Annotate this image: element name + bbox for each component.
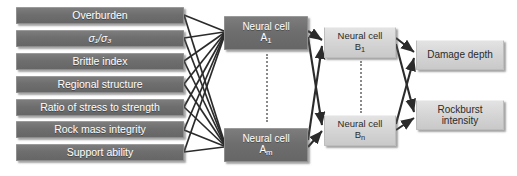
cell-index: 1 xyxy=(361,44,365,53)
neural-cell-bn-label: Neural cellBn xyxy=(338,119,383,142)
input-label: Rock mass integrity xyxy=(54,124,146,136)
input-box-ratio-stress-strength[interactable]: Ratio of stress to strength xyxy=(16,99,184,116)
input-box-rock-mass-integrity[interactable]: Rock mass integrity xyxy=(16,121,184,138)
input-box-brittle-index[interactable]: Brittle index xyxy=(16,53,184,70)
input-box-stress-ratio[interactable]: σ₁/σ₃ xyxy=(16,30,184,47)
layer-a-ellipsis xyxy=(266,54,268,122)
input-box-support-ability[interactable]: Support ability xyxy=(16,144,184,161)
input-box-regional-structure[interactable]: Regional structure xyxy=(16,76,184,93)
input-to-a-wires xyxy=(184,15,224,152)
neural-cell-bn[interactable]: Neural cellBn xyxy=(324,115,396,146)
output-box-rockburst-intensity[interactable]: Rockburstintensity xyxy=(416,100,504,130)
input-label: Support ability xyxy=(67,147,134,159)
layer-b-ellipsis xyxy=(360,61,362,113)
neural-cell-b1-label: Neural cellB1 xyxy=(338,31,383,54)
input-label: Ratio of stress to strength xyxy=(40,102,160,114)
cell-index: m xyxy=(266,148,273,157)
cell-prefix: Neural cell xyxy=(242,133,289,144)
cell-prefix: Neural cell xyxy=(242,21,289,32)
neural-cell-a1-label: Neural cellA1 xyxy=(242,21,289,46)
cell-index: n xyxy=(361,132,365,141)
output-label-line2: intensity xyxy=(442,115,479,126)
input-label: Regional structure xyxy=(57,79,142,91)
input-label-stress-ratio: σ₁/σ₃ xyxy=(88,33,111,45)
neural-cell-b1[interactable]: Neural cellB1 xyxy=(324,27,396,58)
a-to-b-wires xyxy=(308,31,322,147)
neural-cell-am[interactable]: Neural cellAm xyxy=(224,128,308,162)
cell-prefix: Neural cell xyxy=(338,118,383,129)
stress-denominator: σ₃ xyxy=(101,32,112,44)
input-box-overburden[interactable]: Overburden xyxy=(16,7,184,24)
cell-index: 1 xyxy=(267,36,271,45)
stress-numerator: σ₁ xyxy=(88,32,98,44)
input-label: Overburden xyxy=(72,10,127,22)
output-label-rockburst-intensity: Rockburstintensity xyxy=(437,104,482,126)
neural-cell-a1[interactable]: Neural cellA1 xyxy=(224,16,308,50)
input-label: Brittle index xyxy=(73,56,128,68)
output-label: Damage depth xyxy=(427,49,493,60)
output-box-damage-depth[interactable]: Damage depth xyxy=(416,40,504,70)
output-label-line1: Rockburst xyxy=(437,104,482,115)
cell-prefix: Neural cell xyxy=(338,30,383,41)
network-diagram: Overburden σ₁/σ₃ Brittle index Regional … xyxy=(0,0,517,176)
neural-cell-am-label: Neural cellAm xyxy=(242,133,289,158)
b-to-output-wires xyxy=(396,38,414,130)
